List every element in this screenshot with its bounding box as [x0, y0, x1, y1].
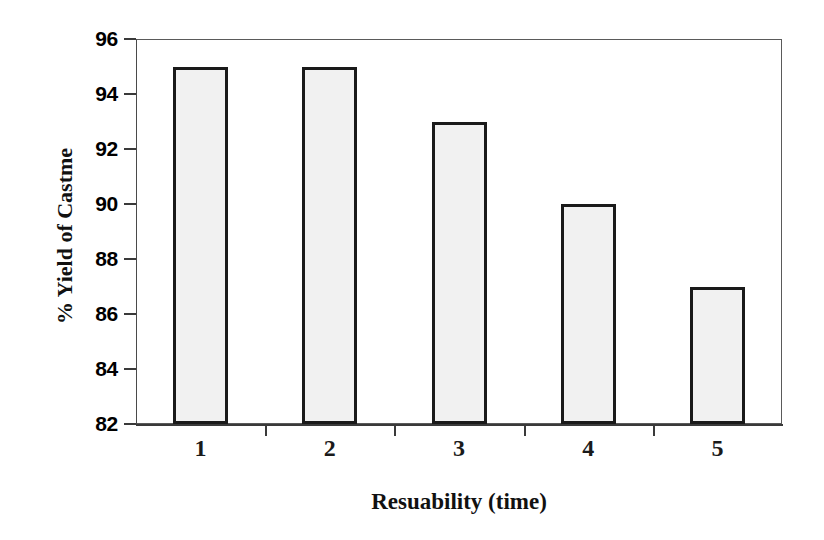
x-axis-tick-label: 2 — [300, 434, 360, 462]
x-axis-tick-label: 1 — [171, 434, 231, 462]
y-axis-tick — [124, 203, 136, 205]
x-axis-tick — [653, 425, 655, 436]
y-axis-tick — [124, 258, 136, 260]
y-axis-title: % Yield of Castme — [53, 71, 77, 401]
x-axis-line — [136, 424, 783, 426]
x-axis-title: Resuability (time) — [136, 489, 782, 515]
bar — [173, 67, 228, 425]
bar — [690, 287, 745, 425]
bar — [561, 204, 616, 424]
x-axis-tick — [524, 425, 526, 436]
x-axis-tick-label: 3 — [429, 434, 489, 462]
y-axis-tick — [124, 368, 136, 370]
y-axis-tick — [124, 423, 136, 425]
y-axis-line — [136, 39, 137, 425]
bars-layer — [136, 39, 782, 424]
bar-chart-figure: 9694929088868482 12345 % Yield of Castme… — [0, 0, 824, 540]
y-axis-tick — [124, 148, 136, 150]
bar — [432, 122, 487, 425]
y-axis-tick — [124, 38, 136, 40]
y-axis-tick-label: 96 — [62, 28, 118, 49]
x-axis-tick-label: 4 — [558, 434, 618, 462]
y-axis-tick — [124, 93, 136, 95]
bar — [302, 67, 357, 425]
x-axis-tick-label: 5 — [687, 434, 747, 462]
y-axis-tick-label: 82 — [62, 413, 118, 434]
x-axis-tick — [394, 425, 396, 436]
y-axis-tick — [124, 313, 136, 315]
x-axis-tick — [265, 425, 267, 436]
